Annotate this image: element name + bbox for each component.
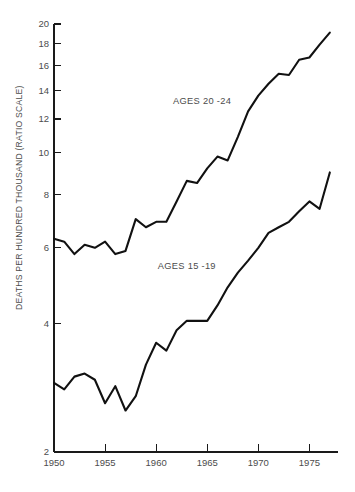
series-line-ages-15-19 (54, 172, 330, 410)
y-tick-label: 14 (38, 85, 49, 96)
x-tick-label: 1970 (248, 457, 269, 468)
y-tick-label: 8 (44, 189, 49, 200)
x-tick-label: 1965 (197, 457, 218, 468)
y-axis-ticks: 2468101214161820 (38, 18, 61, 457)
series-label-ages-15-19: AGES 15 -19 (158, 261, 216, 271)
y-tick-label: 10 (38, 147, 49, 158)
x-tick-label: 1960 (146, 457, 167, 468)
x-axis-ticks: 195019551960196519701975 (43, 444, 320, 468)
y-tick-label: 4 (44, 318, 49, 329)
y-axis-title: DEATHS PER HUNDRED THOUSAND (RATIO SCALE… (14, 85, 24, 310)
x-tick-label: 1975 (299, 457, 320, 468)
y-tick-label: 18 (38, 38, 49, 49)
y-tick-label: 6 (44, 242, 49, 253)
series-label-ages-20-24: AGES 20 -24 (173, 96, 231, 106)
series-group (54, 33, 330, 411)
y-tick-label: 12 (38, 113, 49, 124)
x-tick-label: 1955 (95, 457, 116, 468)
x-tick-label: 1950 (43, 457, 64, 468)
chart-container: DEATHS PER HUNDRED THOUSAND (RATIO SCALE… (0, 0, 355, 492)
y-tick-label: 2 (44, 446, 49, 457)
y-tick-label: 16 (38, 60, 49, 71)
line-chart: DEATHS PER HUNDRED THOUSAND (RATIO SCALE… (0, 0, 355, 492)
series-labels: AGES 20 -24AGES 15 -19 (158, 96, 231, 271)
y-tick-label: 20 (38, 18, 49, 29)
